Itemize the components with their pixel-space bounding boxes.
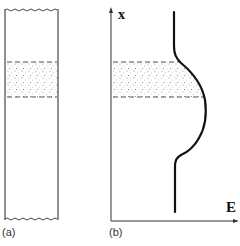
panel-b	[109, 7, 239, 223]
panel-a	[5, 9, 58, 220]
x-axis-arrow-icon	[233, 219, 239, 223]
diagram-figure	[0, 0, 240, 246]
stippled-band-b	[113, 62, 208, 97]
y-axis-label: x	[118, 7, 125, 23]
y-axis-arrow-icon	[109, 7, 113, 13]
top-break-line	[5, 9, 57, 11]
bottom-break-line	[5, 218, 57, 220]
x-axis-label: E	[226, 199, 236, 216]
stippled-band-a	[6, 62, 58, 97]
panel-a-label: (a)	[2, 226, 15, 238]
field-profile-curve	[174, 12, 206, 212]
panel-b-label: (b)	[109, 226, 122, 238]
